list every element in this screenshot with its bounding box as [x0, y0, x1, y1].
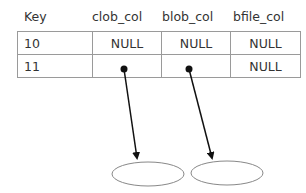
blob-lob-locator-ellipse — [191, 161, 263, 185]
clob-lob-locator-ellipse — [112, 162, 184, 186]
blob-pointer-arrow — [189, 69, 212, 158]
clob-pointer-arrow — [124, 69, 137, 158]
pointer-diagram — [0, 0, 306, 193]
